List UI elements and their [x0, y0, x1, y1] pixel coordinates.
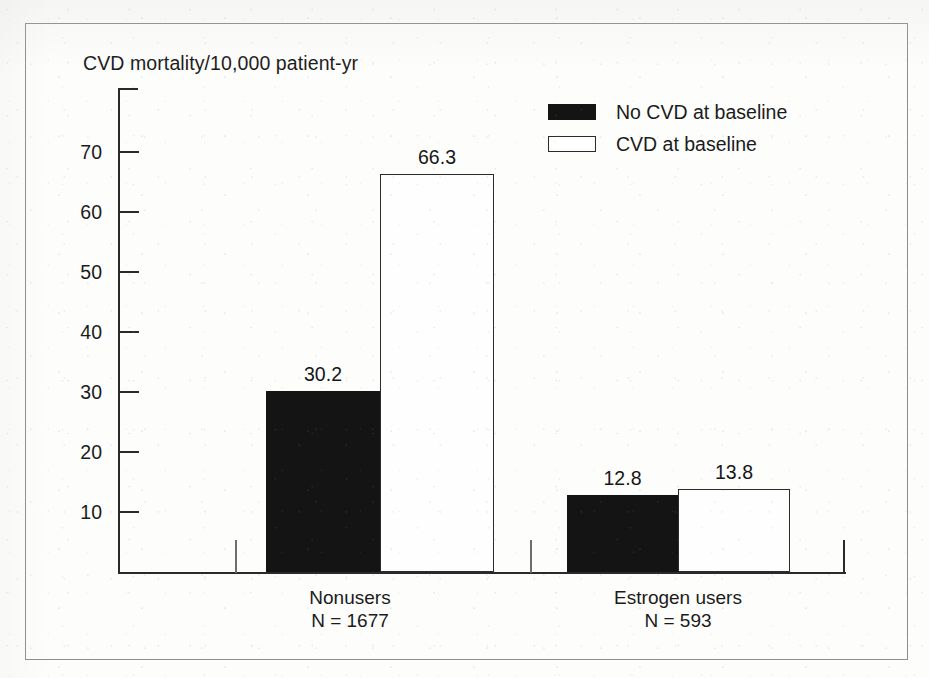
legend-swatch-light-icon — [548, 136, 596, 152]
chart-page: CVD mortality/10,000 patient-yr 10203040… — [0, 0, 929, 678]
bar-value-label-1-1: 13.8 — [715, 461, 753, 484]
y-tick-label-10: 10 — [80, 501, 102, 524]
bar-0-0[interactable]: 30.2 — [266, 391, 380, 572]
group-separator-0 — [235, 540, 237, 573]
legend-swatch-dark-icon — [548, 104, 596, 120]
y-tick-label-60: 60 — [80, 201, 102, 224]
y-tick-label-30: 30 — [80, 381, 102, 404]
bar-1-1[interactable]: 13.8 — [678, 489, 790, 572]
y-tick-10: 10 — [118, 511, 139, 513]
y-tick-50: 50 — [118, 271, 139, 273]
legend-label-cvd: CVD at baseline — [616, 133, 757, 156]
y-axis-top-cap — [118, 88, 138, 90]
legend-item-cvd: CVD at baseline — [548, 128, 787, 160]
category-count-1: N = 593 — [614, 609, 742, 632]
group-separator-1 — [530, 540, 532, 573]
x-axis-line — [118, 572, 846, 574]
category-count-0: N = 1677 — [309, 609, 390, 632]
chart-legend: No CVD at baseline CVD at baseline — [548, 96, 787, 160]
category-label-1: Estrogen usersN = 593 — [614, 586, 742, 632]
y-tick-label-50: 50 — [80, 261, 102, 284]
legend-item-no-cvd: No CVD at baseline — [548, 96, 787, 128]
y-tick-20: 20 — [118, 451, 139, 453]
y-tick-30: 30 — [118, 391, 139, 393]
y-tick-label-40: 40 — [80, 321, 102, 344]
x-axis-end-tick — [843, 540, 845, 574]
y-tick-40: 40 — [118, 331, 139, 333]
legend-label-no-cvd: No CVD at baseline — [616, 101, 787, 124]
y-tick-label-20: 20 — [80, 441, 102, 464]
y-tick-label-70: 70 — [80, 141, 102, 164]
y-tick-70: 70 — [118, 151, 139, 153]
bar-1-0[interactable]: 12.8 — [567, 495, 678, 572]
bar-value-label-0-1: 66.3 — [418, 146, 456, 169]
bar-0-1[interactable]: 66.3 — [380, 174, 494, 572]
category-label-0: NonusersN = 1677 — [309, 586, 390, 632]
bar-value-label-1-0: 12.8 — [604, 467, 642, 490]
y-axis-title: CVD mortality/10,000 patient-yr — [83, 52, 358, 75]
bar-value-label-0-0: 30.2 — [304, 363, 342, 386]
y-tick-60: 60 — [118, 211, 139, 213]
category-name-1: Estrogen users — [614, 586, 742, 609]
category-name-0: Nonusers — [309, 586, 390, 609]
